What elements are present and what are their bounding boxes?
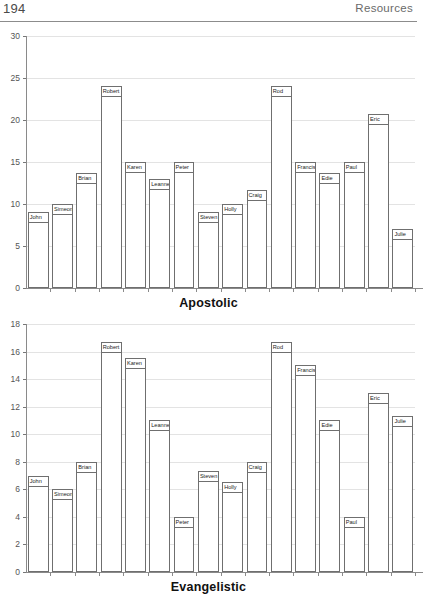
bar-label: John <box>28 212 49 223</box>
x-axis-tick-mark <box>221 288 222 292</box>
header-divider <box>0 21 417 22</box>
x-axis-tick-mark <box>415 288 416 292</box>
y-axis-tick-label: 16 <box>0 347 20 357</box>
x-axis-tick-mark <box>391 288 392 292</box>
bar: Francis <box>295 162 316 288</box>
x-axis-tick-mark <box>293 288 294 292</box>
bar-label: Francis <box>295 365 316 376</box>
bar-label: Paul <box>344 517 365 528</box>
bar: Eric <box>368 393 389 572</box>
bar-label: Craig <box>247 462 268 473</box>
x-axis-tick-mark <box>366 572 367 576</box>
y-axis-tick-label: 10 <box>0 199 20 209</box>
x-axis-tick-mark <box>148 572 149 576</box>
bar: Simeon <box>52 489 73 572</box>
x-axis-tick-mark <box>75 288 76 292</box>
x-axis-line <box>26 288 423 289</box>
bar-label: Julie <box>392 229 413 240</box>
y-axis-tick-label: 6 <box>0 484 20 494</box>
y-axis-tick-label: 14 <box>0 374 20 384</box>
bar-label: Robert <box>101 342 122 353</box>
bar: Craig <box>247 462 268 572</box>
y-axis-tick-label: 0 <box>0 567 20 577</box>
bar-label: Peter <box>174 162 195 173</box>
x-axis-tick-mark <box>99 288 100 292</box>
y-axis-tick-label: 4 <box>0 512 20 522</box>
y-axis-tick-label: 5 <box>0 241 20 251</box>
bar: Craig <box>247 190 268 288</box>
bar: Brian <box>76 173 97 288</box>
gridline <box>26 36 415 37</box>
x-axis-tick-mark <box>196 288 197 292</box>
chart-evangelistic: 024681012141618JohnSimeonBrianRobertKare… <box>0 316 417 602</box>
bar: Paul <box>344 517 365 572</box>
bar-label: Eric <box>368 393 389 404</box>
bar: Karen <box>125 162 146 288</box>
x-axis-tick-mark <box>269 572 270 576</box>
bar-label: Julie <box>392 416 413 427</box>
y-axis-tick-label: 10 <box>0 429 20 439</box>
x-axis-tick-mark <box>269 288 270 292</box>
bar: Peter <box>174 162 195 288</box>
x-axis-tick-mark <box>415 572 416 576</box>
x-axis-tick-mark <box>75 572 76 576</box>
bar: Rod <box>271 86 292 288</box>
bar: Steven <box>198 212 219 288</box>
bar-label: Edie <box>319 420 340 431</box>
bar: Karen <box>125 358 146 572</box>
bar: Brian <box>76 462 97 572</box>
x-axis-tick-mark <box>172 288 173 292</box>
x-axis-tick-mark <box>293 572 294 576</box>
bar: Eric <box>368 114 389 288</box>
x-axis-tick-mark <box>391 572 392 576</box>
chart-title-evangelistic: Evangelistic <box>0 580 417 594</box>
bar-label: Rod <box>271 342 292 353</box>
x-axis-tick-mark <box>196 572 197 576</box>
bar: Leanne <box>149 179 170 288</box>
bar-label: Edie <box>319 173 340 184</box>
bar-label: Robert <box>101 86 122 97</box>
bar: Francis <box>295 365 316 572</box>
y-axis-tick-label: 25 <box>0 73 20 83</box>
bar: John <box>28 476 49 572</box>
x-axis-tick-mark <box>245 572 246 576</box>
page-header: 194 Resources <box>0 0 417 26</box>
x-axis-line <box>26 572 423 573</box>
x-axis-tick-mark <box>221 572 222 576</box>
bar-label: Karen <box>125 358 146 369</box>
bar: John <box>28 212 49 288</box>
x-axis-tick-mark <box>342 572 343 576</box>
bar-label: Brian <box>76 173 97 184</box>
y-axis-tick-label: 12 <box>0 402 20 412</box>
x-axis-tick-mark <box>50 572 51 576</box>
bar: Paul <box>344 162 365 288</box>
bar-label: Holly <box>222 482 243 493</box>
y-axis-tick-label: 0 <box>0 283 20 293</box>
bar-label: Steven <box>198 471 219 482</box>
gridline <box>26 324 415 325</box>
bar-label: Peter <box>174 517 195 528</box>
bar-label: Francis <box>295 162 316 173</box>
bar-label: John <box>28 476 49 487</box>
bar: Steven <box>198 471 219 572</box>
y-axis-tick-label: 20 <box>0 115 20 125</box>
y-axis-tick-label: 30 <box>0 31 20 41</box>
page-number: 194 <box>3 1 26 16</box>
y-axis-tick-label: 2 <box>0 539 20 549</box>
bar-label: Holly <box>222 204 243 215</box>
x-axis-tick-mark <box>50 288 51 292</box>
bar-label: Rod <box>271 86 292 97</box>
gridline <box>26 78 415 79</box>
x-axis-tick-mark <box>245 288 246 292</box>
bar: Robert <box>101 86 122 288</box>
bar: Robert <box>101 342 122 572</box>
bar-label: Eric <box>368 114 389 125</box>
bar: Holly <box>222 482 243 572</box>
bar-label: Karen <box>125 162 146 173</box>
bar-label: Leanne <box>149 420 170 431</box>
bar: Edie <box>319 420 340 572</box>
chart-title-apostolic: Apostolic <box>0 296 417 310</box>
x-axis-tick-mark <box>342 288 343 292</box>
bar: Rod <box>271 342 292 572</box>
y-axis-tick-label: 8 <box>0 457 20 467</box>
